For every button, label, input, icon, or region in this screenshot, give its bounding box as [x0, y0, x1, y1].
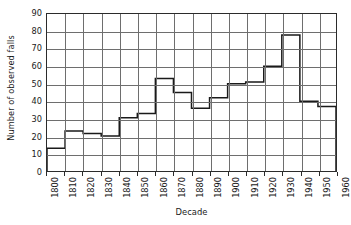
y-tick-label: 80 [32, 27, 42, 35]
y-tick-label: 30 [32, 115, 42, 123]
vertical-gridline [283, 14, 284, 171]
x-tick-label: 1850 [141, 177, 149, 207]
vertical-gridline [265, 14, 266, 171]
x-tick-mark [301, 172, 302, 176]
x-tick-label: 1940 [305, 177, 313, 207]
x-tick-label: 1810 [69, 177, 77, 207]
x-tick-label: 1930 [287, 177, 295, 207]
y-tick-label: 20 [32, 133, 42, 141]
x-tick-mark [173, 172, 174, 176]
vertical-gridline [156, 14, 157, 171]
vertical-gridline [65, 14, 66, 171]
x-tick-mark [282, 172, 283, 176]
x-tick-label: 1960 [342, 177, 350, 207]
y-axis-tick-labels: 0102030405060708090 [20, 13, 44, 172]
histogram-outline [47, 14, 336, 171]
x-tick-mark [319, 172, 320, 176]
x-tick-mark [337, 172, 338, 176]
vertical-gridline [138, 14, 139, 171]
x-tick-label: 1820 [87, 177, 95, 207]
y-tick-label: 50 [32, 80, 42, 88]
x-tick-mark [192, 172, 193, 176]
x-tick-mark [64, 172, 65, 176]
y-tick-label: 40 [32, 97, 42, 105]
x-axis-tick-labels: 1800181018201830184018501860187018801890… [46, 177, 337, 207]
x-tick-mark [155, 172, 156, 176]
x-tick-mark [246, 172, 247, 176]
x-tick-mark [46, 172, 47, 176]
horizontal-gridline [47, 32, 336, 33]
x-tick-label: 1860 [160, 177, 168, 207]
vertical-gridline [120, 14, 121, 171]
x-tick-label: 1840 [123, 177, 131, 207]
y-tick-label: 0 [37, 168, 42, 176]
x-tick-label: 1910 [251, 177, 259, 207]
x-tick-mark [101, 172, 102, 176]
x-tick-mark [228, 172, 229, 176]
y-axis-title-text: Number of observed falls [6, 35, 16, 141]
x-tick-label: 1920 [269, 177, 277, 207]
x-tick-mark [137, 172, 138, 176]
vertical-gridline [83, 14, 84, 171]
vertical-gridline [174, 14, 175, 171]
plot-area [46, 13, 337, 172]
horizontal-gridline [47, 49, 336, 50]
x-tick-label: 1870 [178, 177, 186, 207]
horizontal-gridline [47, 67, 336, 68]
y-axis-title: Number of observed falls [0, 0, 22, 175]
x-tick-mark [82, 172, 83, 176]
x-tick-label: 1950 [323, 177, 331, 207]
vertical-gridline [193, 14, 194, 171]
y-tick-label: 10 [32, 150, 42, 158]
horizontal-gridline [47, 102, 336, 103]
y-tick-label: 70 [32, 44, 42, 52]
x-tick-label: 1800 [51, 177, 59, 207]
x-axis-title: Decade [46, 207, 337, 217]
x-tick-mark [210, 172, 211, 176]
horizontal-gridline [47, 155, 336, 156]
vertical-gridline [302, 14, 303, 171]
vertical-gridline [229, 14, 230, 171]
x-tick-label: 1880 [196, 177, 204, 207]
horizontal-gridline [47, 85, 336, 86]
x-tick-mark [264, 172, 265, 176]
x-tick-label: 1890 [214, 177, 222, 207]
vertical-gridline [102, 14, 103, 171]
x-tick-label: 1830 [105, 177, 113, 207]
vertical-gridline [320, 14, 321, 171]
x-tick-mark [119, 172, 120, 176]
vertical-gridline [211, 14, 212, 171]
vertical-gridline [247, 14, 248, 171]
y-tick-label: 90 [32, 9, 42, 17]
horizontal-gridline [47, 120, 336, 121]
y-tick-label: 60 [32, 62, 42, 70]
x-tick-label: 1900 [232, 177, 240, 207]
horizontal-gridline [47, 138, 336, 139]
